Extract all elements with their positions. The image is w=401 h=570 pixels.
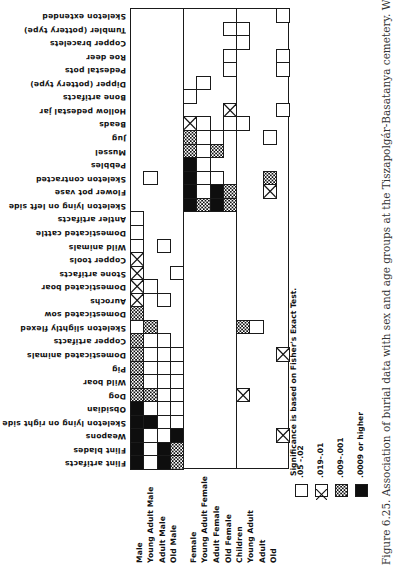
figure: Skeleton extendedTumbler (pottery type)C… xyxy=(0,0,401,570)
significance-cell xyxy=(170,442,184,457)
row-label: Bone artifacts xyxy=(0,91,126,103)
significance-cell xyxy=(276,62,290,77)
significance-cell xyxy=(130,239,144,254)
significance-cell xyxy=(183,89,197,104)
significance-cell xyxy=(157,293,171,308)
significance-cell xyxy=(157,415,171,430)
row-label: Flower pot vase xyxy=(0,186,126,198)
cross-icon xyxy=(131,253,143,266)
cross-icon xyxy=(237,389,249,402)
significance-cell xyxy=(130,361,144,376)
row-label: Mussel xyxy=(0,146,126,158)
significance-cell xyxy=(276,8,290,23)
row-label: Dipper (pottery type) xyxy=(0,78,126,90)
cross-icon xyxy=(264,185,276,198)
significance-cell xyxy=(157,347,171,362)
significance-cell xyxy=(223,116,237,131)
significance-cell xyxy=(249,320,263,335)
significance-cell xyxy=(196,198,210,213)
significance-cell xyxy=(130,293,144,308)
significance-cell xyxy=(263,130,277,145)
significance-cell xyxy=(210,198,224,213)
significance-cell xyxy=(183,116,197,131)
column-label: Young Adult Male xyxy=(146,486,155,563)
significance-cell xyxy=(130,333,144,348)
row-label: Pebbles xyxy=(0,159,126,171)
significance-cell xyxy=(157,388,171,403)
row-label: Domesticated animals xyxy=(0,349,126,361)
significance-cell xyxy=(143,442,157,457)
significance-cell xyxy=(170,361,184,376)
significance-cell xyxy=(170,347,184,362)
significance-cell xyxy=(157,401,171,416)
significance-cell xyxy=(196,116,210,131)
row-label: Wild boar xyxy=(0,376,126,388)
significance-cell xyxy=(157,455,171,470)
legend-swatch-empty xyxy=(295,484,308,497)
significance-cell xyxy=(236,388,250,403)
row-label: Flint artifacts xyxy=(0,457,126,469)
significance-cell xyxy=(183,157,197,172)
legend-label: .05 -.02 xyxy=(296,445,305,478)
row-label: Wild animals xyxy=(0,241,126,253)
significance-cell xyxy=(196,130,210,145)
significance-cell xyxy=(157,428,171,443)
legend-label: .009-.001 xyxy=(336,437,345,478)
significance-cell xyxy=(143,333,157,348)
significance-cell xyxy=(223,62,237,77)
significance-cell xyxy=(143,320,157,335)
significance-cell xyxy=(143,415,157,430)
row-label: Hollow pedestal jar xyxy=(0,105,126,117)
significance-cell xyxy=(130,428,144,443)
row-label: Tumbler (pottery type) xyxy=(0,24,126,36)
row-label: Jug xyxy=(0,132,126,144)
significance-cell xyxy=(196,184,210,199)
significance-cell xyxy=(130,388,144,403)
row-label: Aurochs xyxy=(0,295,126,307)
column-label: Old Male xyxy=(169,525,178,563)
significance-cell xyxy=(130,252,144,267)
significance-cell xyxy=(263,171,277,186)
row-label: Domesticated sow xyxy=(0,308,126,320)
row-label: Flint blades xyxy=(0,444,126,456)
significance-cell xyxy=(130,455,144,470)
figure-caption: Figure 6.25. Association of burial data … xyxy=(380,0,392,565)
row-label: Skeleton contracted xyxy=(0,173,126,185)
column-label: Old Female xyxy=(224,514,233,563)
significance-cell xyxy=(130,442,144,457)
significance-cell xyxy=(183,130,197,145)
significance-cell xyxy=(236,22,250,37)
row-label: Antler artifacts xyxy=(0,213,126,225)
row-label: Pedestal pots xyxy=(0,64,126,76)
significance-cell xyxy=(130,306,144,321)
cross-icon xyxy=(224,104,236,117)
significance-cell xyxy=(223,22,237,37)
significance-cell xyxy=(143,388,157,403)
column-label: Children xyxy=(235,526,244,563)
row-label: Skeleton slightly flexed xyxy=(0,322,126,334)
significance-cell xyxy=(143,428,157,443)
row-label: Domesticated cattle xyxy=(0,227,126,239)
significance-cell xyxy=(276,49,290,64)
significance-cell xyxy=(183,184,197,199)
significance-cell xyxy=(236,116,250,131)
significance-cell xyxy=(183,198,197,213)
significance-cell xyxy=(130,347,144,362)
significance-cell xyxy=(157,333,171,348)
significance-cell xyxy=(210,171,224,186)
significance-cell xyxy=(143,347,157,362)
significance-cell xyxy=(143,455,157,470)
legend-swatch-cross xyxy=(315,484,328,497)
significance-cell xyxy=(170,428,184,443)
row-label: Domesticated boar xyxy=(0,281,126,293)
row-label: Copper bracelets xyxy=(0,37,126,49)
significance-cell xyxy=(157,374,171,389)
cross-icon xyxy=(316,489,327,500)
legend-swatch-black xyxy=(355,484,368,497)
significance-cell xyxy=(170,415,184,430)
column-label: Adult xyxy=(258,540,267,563)
legend-label: .0009 or higher xyxy=(356,412,365,478)
significance-cell xyxy=(143,279,157,294)
significance-cell xyxy=(130,415,144,430)
column-label: Young Adult Female xyxy=(200,476,209,563)
